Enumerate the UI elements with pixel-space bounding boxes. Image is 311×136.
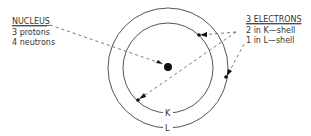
k-shell-label: K bbox=[165, 109, 171, 118]
nucleus-title: NUCLEUS bbox=[12, 17, 50, 26]
arrow-head bbox=[139, 93, 146, 99]
electrons-l-shell: 1 in L—shell bbox=[246, 36, 295, 45]
atom-diagram: K L NUCLEUS 3 protons 4 neutrons 3 ELECT… bbox=[0, 0, 311, 136]
electrons-title: 3 ELECTRONS bbox=[246, 15, 302, 24]
arrow-head bbox=[200, 32, 207, 37]
k-electron-leader-2 bbox=[141, 32, 236, 98]
l-shell-label: L bbox=[165, 124, 170, 133]
electrons-k-shell: 2 in K—shell bbox=[246, 26, 295, 35]
arrow-head bbox=[156, 60, 163, 64]
l-electron bbox=[224, 75, 228, 79]
l-electron-leader bbox=[228, 44, 244, 74]
nucleus-dot bbox=[164, 63, 172, 71]
k-electron-leader-1 bbox=[202, 32, 236, 35]
nucleus-neutrons: 4 neutrons bbox=[12, 38, 55, 47]
nucleus-protons: 3 protons bbox=[12, 28, 50, 37]
